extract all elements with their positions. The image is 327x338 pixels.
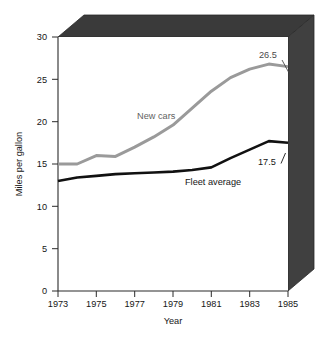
annotation-fleet-average-end-value: 17.5 (258, 157, 276, 167)
y-tick-label: 5 (42, 244, 47, 254)
x-tick-label: 1981 (201, 299, 221, 309)
x-tick-label: 1983 (239, 299, 259, 309)
series-label-fleet-average: Fleet average (185, 177, 241, 187)
y-tick-label: 25 (37, 75, 47, 85)
y-tick-label: 30 (37, 32, 47, 42)
x-axis-ticks (58, 291, 288, 297)
x-tick-label: 1977 (124, 299, 144, 309)
series-label-new-cars: New cars (137, 111, 176, 121)
y-tick-label: 0 (42, 286, 47, 296)
x-tick-label: 1985 (278, 299, 298, 309)
y-axis-ticks (52, 37, 58, 291)
x-axis-title: Year (164, 316, 183, 326)
plot-area-background (58, 37, 288, 291)
x-tick-label: 1973 (48, 299, 68, 309)
y-tick-label: 10 (37, 202, 47, 212)
chart-frame-top-face (58, 15, 314, 37)
mpg-line-chart: 0 5 10 15 20 25 30 Miles per gallon 1973… (0, 0, 327, 338)
x-tick-label: 1979 (163, 299, 183, 309)
chart-frame-right-face (288, 15, 314, 291)
x-tick-label: 1975 (86, 299, 106, 309)
chart-container: 0 5 10 15 20 25 30 Miles per gallon 1973… (0, 0, 327, 338)
annotation-new-cars-end-value: 26.5 (259, 50, 277, 60)
y-axis-tick-labels: 0 5 10 15 20 25 30 (37, 32, 47, 296)
y-tick-label: 15 (37, 159, 47, 169)
x-axis-tick-labels: 1973 1975 1977 1979 1981 1983 1985 (48, 299, 298, 309)
y-tick-label: 20 (37, 117, 47, 127)
y-axis-title: Miles per gallon (14, 132, 24, 196)
